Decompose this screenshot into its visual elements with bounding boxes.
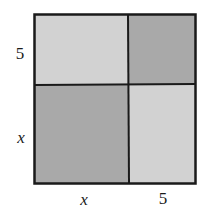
bottom-label-left: x <box>80 191 88 208</box>
left-label-bottom: x <box>17 129 25 146</box>
region-top-left <box>34 15 128 85</box>
left-label-top: 5 <box>16 45 25 62</box>
vertical-divider <box>128 15 129 183</box>
bottom-label-right: 5 <box>159 190 168 207</box>
area-model-square <box>0 0 204 212</box>
area-model-figure: 5 x x 5 <box>0 0 204 212</box>
region-top-right <box>128 15 195 85</box>
region-bottom-right <box>128 85 195 183</box>
region-bottom-left <box>34 85 128 183</box>
horizontal-divider <box>34 84 195 85</box>
